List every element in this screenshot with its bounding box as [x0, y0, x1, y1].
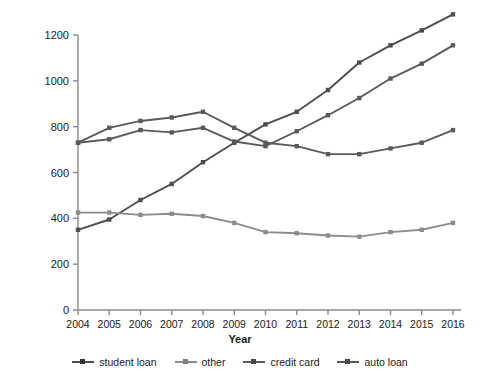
x-tick-label: 2008 [191, 318, 215, 330]
x-tick-label: 2012 [316, 318, 340, 330]
data-point-student-loan [420, 28, 424, 32]
x-tick-label: 2007 [160, 318, 184, 330]
data-point-student-loan [107, 217, 111, 221]
data-point-auto-loan [170, 130, 174, 134]
legend-marker-icon [337, 357, 359, 367]
legend-label: other [202, 356, 226, 368]
y-tick-label: 1000 [45, 75, 69, 87]
data-point-auto-loan [326, 113, 330, 117]
data-point-student-loan [170, 182, 174, 186]
data-point-auto-loan [138, 128, 142, 132]
data-point-credit-card [357, 152, 361, 156]
data-point-auto-loan [232, 139, 236, 143]
data-point-other [263, 230, 267, 234]
chart-legend: student loan other credit card auto loan [0, 356, 480, 368]
data-point-other [76, 210, 80, 214]
data-point-other [420, 228, 424, 232]
data-point-credit-card [420, 141, 424, 145]
legend-marker-icon [175, 357, 197, 367]
legend-item-credit-card[interactable]: credit card [243, 356, 319, 368]
legend-marker-icon [72, 357, 94, 367]
y-tick-label: 0 [63, 304, 69, 316]
line-chart: 0200400600800100012002004200520062007200… [0, 0, 480, 381]
x-tick-label: 2016 [441, 318, 465, 330]
legend-marker-icon [243, 357, 265, 367]
data-point-auto-loan [76, 141, 80, 145]
data-point-student-loan [326, 88, 330, 92]
legend-item-student-loan[interactable]: student loan [72, 356, 156, 368]
legend-label: credit card [270, 356, 319, 368]
data-point-credit-card [107, 126, 111, 130]
data-point-credit-card [201, 110, 205, 114]
data-point-student-loan [263, 122, 267, 126]
x-tick-label: 2005 [98, 318, 122, 330]
data-point-other [170, 212, 174, 216]
series-line-auto-loan [78, 45, 453, 146]
data-point-auto-loan [420, 61, 424, 65]
data-point-other [357, 234, 361, 238]
y-tick-label: 600 [51, 167, 69, 179]
x-tick-label: 2014 [379, 318, 403, 330]
legend-label: student loan [99, 356, 156, 368]
y-tick-label: 800 [51, 121, 69, 133]
data-point-other [451, 221, 455, 225]
data-point-other [138, 213, 142, 217]
legend-label: auto loan [364, 356, 407, 368]
x-axis-title: Year [0, 333, 480, 345]
data-point-student-loan [138, 198, 142, 202]
data-point-credit-card [138, 119, 142, 123]
series-layer [76, 12, 455, 239]
x-tick-label: 2013 [348, 318, 372, 330]
data-point-credit-card [295, 144, 299, 148]
data-point-other [295, 231, 299, 235]
x-tick-label: 2011 [285, 318, 308, 330]
data-point-credit-card [232, 126, 236, 130]
legend-item-auto-loan[interactable]: auto loan [337, 356, 407, 368]
data-point-auto-loan [388, 76, 392, 80]
data-point-other [232, 221, 236, 225]
x-tick-label: 2004 [66, 318, 90, 330]
data-point-credit-card [388, 146, 392, 150]
x-tick-label: 2015 [410, 318, 434, 330]
data-point-student-loan [295, 110, 299, 114]
data-point-other [326, 233, 330, 237]
data-point-auto-loan [357, 96, 361, 100]
data-point-student-loan [76, 228, 80, 232]
y-tick-label: 1200 [45, 29, 69, 41]
x-tick-label: 2010 [254, 318, 278, 330]
data-point-auto-loan [201, 126, 205, 130]
data-point-credit-card [170, 115, 174, 119]
x-tick-label: 2006 [129, 318, 153, 330]
legend-item-other[interactable]: other [175, 356, 226, 368]
data-point-student-loan [388, 43, 392, 47]
plot-area: 0200400600800100012002004200520062007200… [0, 0, 480, 381]
y-tick-label: 200 [51, 258, 69, 270]
data-point-auto-loan [295, 129, 299, 133]
data-point-credit-card [326, 152, 330, 156]
data-point-credit-card [451, 128, 455, 132]
y-tick-label: 400 [51, 212, 69, 224]
data-point-student-loan [201, 160, 205, 164]
data-point-other [201, 214, 205, 218]
data-point-auto-loan [107, 137, 111, 141]
data-point-auto-loan [451, 43, 455, 47]
data-point-student-loan [357, 60, 361, 64]
data-point-other [388, 230, 392, 234]
data-point-auto-loan [263, 144, 267, 148]
x-tick-label: 2009 [223, 318, 247, 330]
data-point-student-loan [451, 12, 455, 16]
data-point-other [107, 210, 111, 214]
